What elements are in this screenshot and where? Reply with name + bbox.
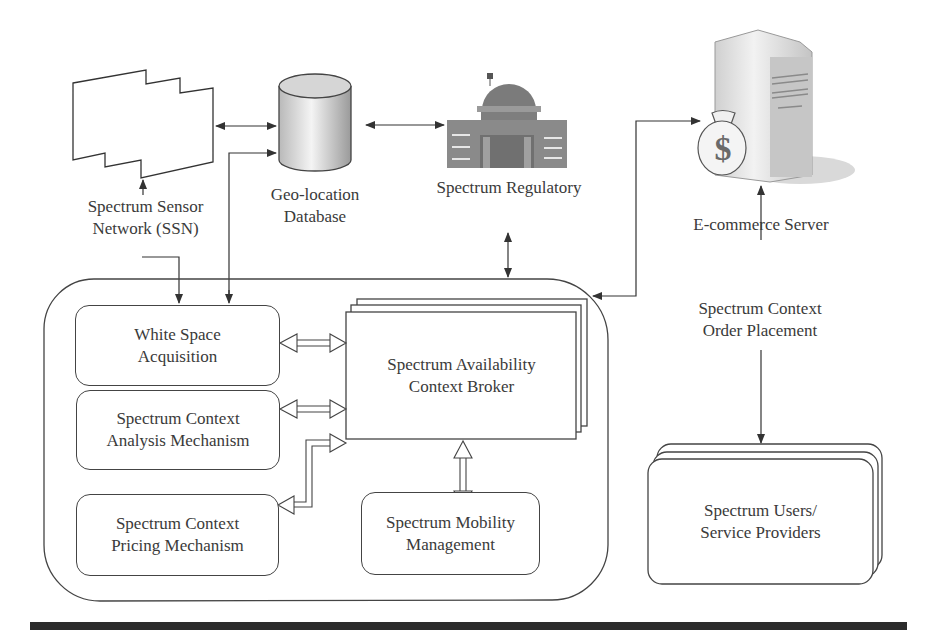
pricing-line1: Spectrum Context: [111, 513, 244, 535]
broker-line1: Spectrum Availability: [387, 354, 535, 376]
ssn-label-line2: Network (SSN): [58, 218, 233, 240]
users-providers-box: Spectrum Users/ Service Providers: [649, 460, 872, 583]
svg-text:$: $: [715, 130, 732, 167]
analysis-line1: Spectrum Context: [106, 408, 249, 430]
ssn-label-line1: Spectrum Sensor: [58, 196, 233, 218]
server-money-bag-icon: $: [698, 30, 855, 184]
ecommerce-label: E-commerce Server: [676, 214, 846, 236]
diagram-canvas: $: [0, 0, 930, 634]
users-line2: Service Providers: [700, 522, 820, 544]
order-placement-line1: Spectrum Context: [665, 298, 855, 320]
geo-db-label-line2: Database: [245, 206, 385, 228]
mobility-line1: Spectrum Mobility: [386, 512, 515, 534]
order-placement-line2: Order Placement: [665, 320, 855, 342]
regulatory-label: Spectrum Regulatory: [404, 177, 614, 199]
pricing-line2: Pricing Mechanism: [111, 535, 244, 557]
geo-db-label-line1: Geo-location: [245, 184, 385, 206]
order-placement-label: Spectrum Context Order Placement: [665, 298, 855, 342]
government-building-icon: [447, 73, 567, 168]
users-line1: Spectrum Users/: [700, 500, 820, 522]
mobility-management-box: Spectrum Mobility Management: [361, 492, 540, 575]
sensor-network-icon: [73, 70, 213, 178]
context-analysis-box: Spectrum Context Analysis Mechanism: [76, 390, 280, 470]
white-space-acquisition-box: White Space Acquisition: [75, 305, 280, 386]
ssn-label: Spectrum Sensor Network (SSN): [58, 196, 233, 240]
availability-broker-box: Spectrum Availability Context Broker: [348, 313, 575, 438]
broker-line2: Context Broker: [387, 376, 535, 398]
database-cylinder-icon: [279, 74, 351, 171]
context-pricing-box: Spectrum Context Pricing Mechanism: [76, 494, 279, 576]
white-space-line1: White Space: [134, 324, 220, 346]
white-space-line2: Acquisition: [134, 346, 220, 368]
bottom-rule: [30, 622, 907, 630]
geo-db-label: Geo-location Database: [245, 184, 385, 228]
mobility-line2: Management: [386, 534, 515, 556]
analysis-line2: Analysis Mechanism: [106, 430, 249, 452]
